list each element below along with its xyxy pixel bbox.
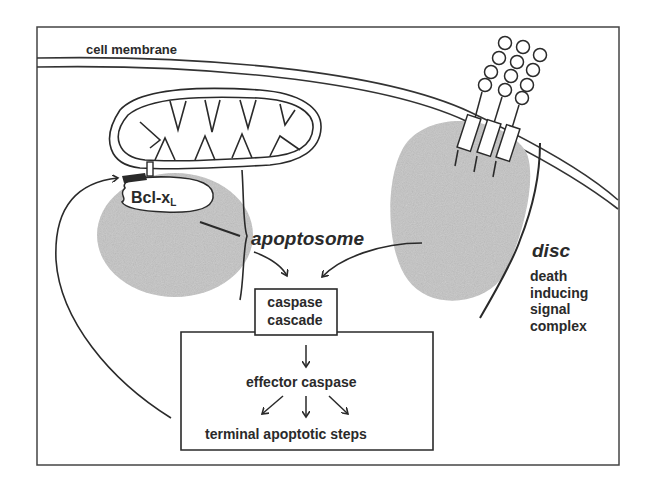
disc-label: disc (532, 241, 570, 260)
caspase-cascade-label: caspase cascade (256, 293, 334, 329)
bcl-xl-label: Bcl-xL (131, 190, 176, 208)
apoptosome-label: apoptosome (251, 229, 364, 248)
apoptosome-to-caspase-arrow (254, 252, 287, 276)
mitochondrion (110, 88, 321, 168)
terminal-steps-label: terminal apoptotic steps (205, 427, 367, 441)
apoptosis-diagram: cell membrane Bcl-xL apoptosome disc dea… (0, 0, 651, 493)
bcl-xl-subscript: L (170, 197, 176, 208)
effector-to-terminal-arrow-right (329, 396, 348, 414)
mitochondrial-pore (147, 162, 153, 176)
bcl-xl-main: Bcl-x (131, 189, 170, 206)
effector-caspase-label: effector caspase (246, 375, 357, 389)
effector-to-terminal-arrow-left (262, 396, 283, 414)
cell-membrane-label: cell membrane (86, 43, 177, 56)
disc-description: death inducing signal complex (530, 268, 620, 334)
